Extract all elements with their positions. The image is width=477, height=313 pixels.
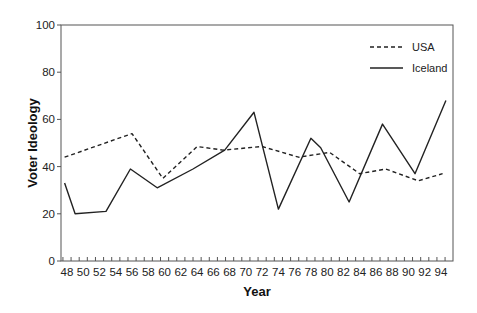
x-tick-label: 62 <box>174 266 187 278</box>
x-tick-label: 82 <box>337 266 350 278</box>
y-tick-label: 20 <box>42 208 55 220</box>
x-tick-label: 66 <box>207 266 220 278</box>
x-tick-label: 58 <box>142 266 155 278</box>
y-tick-label: 100 <box>36 19 55 31</box>
x-tick-label: 50 <box>77 266 90 278</box>
x-tick-label: 84 <box>353 266 366 278</box>
x-axis: 4850525456586062646668707274767880828486… <box>61 257 448 278</box>
y-tick-label: 40 <box>42 161 55 173</box>
x-tick-label: 64 <box>191 266 204 278</box>
x-tick-label: 60 <box>158 266 171 278</box>
x-tick-label: 68 <box>223 266 236 278</box>
y-tick-label: 0 <box>49 255 55 267</box>
x-tick-label: 74 <box>272 266 285 278</box>
legend-iceland-label: Iceland <box>412 62 447 74</box>
x-tick-label: 52 <box>93 266 106 278</box>
x-tick-label: 86 <box>370 266 383 278</box>
x-tick-label: 94 <box>435 266 448 278</box>
x-tick-label: 92 <box>418 266 431 278</box>
y-axis-label: Voter Ideology <box>25 98 40 188</box>
series-lines <box>65 101 446 214</box>
y-tick-label: 80 <box>42 66 55 78</box>
x-tick-label: 90 <box>402 266 415 278</box>
series-usa-line <box>65 134 443 181</box>
x-tick-label: 56 <box>126 266 139 278</box>
x-tick-label: 88 <box>386 266 399 278</box>
x-tick-label: 72 <box>256 266 269 278</box>
series-iceland-line <box>65 101 446 214</box>
line-chart: 020406080100 485052545658606264666870727… <box>0 0 477 313</box>
legend-usa-label: USA <box>412 41 435 53</box>
y-tick-label: 60 <box>42 113 55 125</box>
x-tick-label: 80 <box>321 266 334 278</box>
x-axis-label: Year <box>243 284 270 299</box>
x-tick-label: 78 <box>305 266 318 278</box>
x-tick-label: 54 <box>109 266 122 278</box>
legend: USA Iceland <box>370 41 447 74</box>
x-tick-label: 76 <box>288 266 301 278</box>
x-tick-label: 70 <box>239 266 252 278</box>
x-tick-label: 48 <box>61 266 74 278</box>
